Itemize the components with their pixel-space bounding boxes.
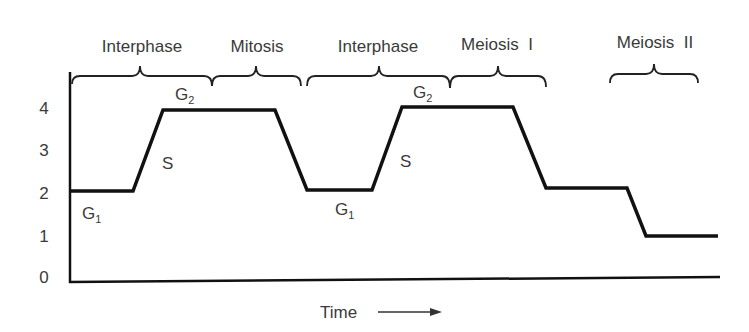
bracket-mitosis [212,66,301,86]
annotation-g1: G1 [335,200,354,221]
phase-label: Interphase [102,37,182,56]
chart: 4 3 2 1 0 Interphase Mitosis Interphase … [0,0,749,332]
x-axis-label: Time [320,303,357,322]
arrow-right-icon [378,308,442,316]
annotation-s: S [400,152,411,171]
phase-label: Meiosis II [617,33,694,52]
annotation-g2: G2 [175,85,194,106]
y-tick-label: 3 [39,141,48,160]
annotation-g1: G1 [82,204,101,225]
y-tick-label: 0 [39,268,48,287]
annotation-g2: G2 [413,83,432,104]
phase-label: Meiosis I [461,35,533,54]
x-axis [69,277,720,282]
y-tick-label: 1 [39,227,48,246]
y-tick-label: 2 [39,184,48,203]
phase-label: Interphase [338,37,418,56]
phase-label: Mitosis [231,37,284,56]
bracket-interphase-1 [72,66,212,86]
bracket-meiosis-1 [450,66,546,88]
bracket-interphase-2 [307,66,450,88]
annotation-s: S [162,154,173,173]
y-tick-label: 4 [39,99,48,118]
phase-brackets [72,64,698,88]
bracket-meiosis-2 [610,64,698,83]
